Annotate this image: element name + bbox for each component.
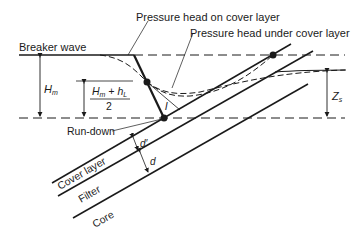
top-point	[270, 52, 277, 59]
label-pressure-on: Pressure head on cover layer	[136, 11, 280, 23]
label-d-prime: d′	[140, 138, 149, 149]
breakwater-diagram: Breaker wave Pressure head on cover laye…	[0, 0, 361, 238]
label-core: Core	[90, 208, 116, 230]
label-zs: Zs	[331, 90, 343, 103]
filter-surface	[58, 51, 313, 196]
label-hm: Hm	[44, 83, 58, 96]
label-d: d	[150, 156, 156, 167]
label-run-down: Run-down	[67, 125, 115, 137]
label-frac-den: 2	[106, 100, 112, 112]
label-cover-layer: Cover layer	[55, 154, 108, 191]
label-frac-num: Hm + hL	[92, 85, 127, 98]
pressure-under-solid-end	[275, 70, 346, 72]
diagram-canvas: Breaker wave Pressure head on cover laye…	[0, 0, 361, 238]
leader-pressure-on	[128, 21, 148, 55]
leader-pressure-under	[172, 33, 193, 88]
label-breaker-wave: Breaker wave	[19, 41, 86, 53]
pressure-on-cover-curve	[134, 55, 164, 118]
label-pressure-under: Pressure head under cover layer	[190, 27, 350, 39]
d-dimension	[140, 152, 148, 172]
label-filter: Filter	[76, 182, 103, 204]
l-segment	[147, 82, 180, 110]
run-down-point	[161, 115, 168, 122]
leader-run-down	[112, 119, 162, 131]
upper-point	[144, 79, 151, 86]
d-prime-dimension	[133, 137, 138, 150]
label-l: l	[165, 100, 168, 112]
pressure-under-cover-curve	[147, 70, 345, 94]
pressure-on-cover-dashed	[100, 55, 273, 96]
